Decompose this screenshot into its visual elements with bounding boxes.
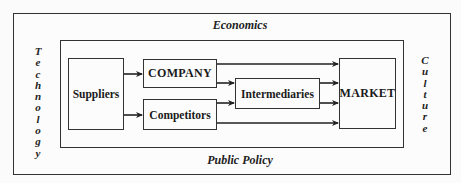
arrows-layer bbox=[0, 0, 461, 183]
